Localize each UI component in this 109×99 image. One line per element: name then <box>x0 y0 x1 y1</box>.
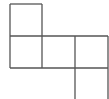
diagram-canvas <box>0 0 109 99</box>
square-net-diagram <box>0 0 109 99</box>
